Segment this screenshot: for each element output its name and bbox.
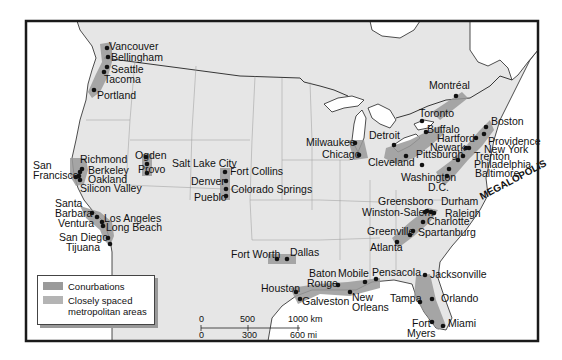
city-label: Rouge	[307, 277, 338, 289]
city-dot-icon	[101, 224, 106, 229]
city-dot-icon	[420, 163, 425, 168]
city-dot-icon	[454, 94, 459, 99]
city-label: Milwaukee	[306, 136, 356, 148]
map-legend: Conurbations Closely spaced metropolitan…	[37, 275, 155, 325]
city-label: Galveston	[302, 295, 349, 307]
city-dot-icon	[420, 119, 425, 124]
city-label: Silicon Valley	[80, 182, 142, 194]
city-label: Fort Collins	[230, 165, 283, 177]
city-dot-icon	[482, 132, 487, 137]
city-label: Francisco	[33, 169, 79, 181]
city-dot-icon	[392, 143, 397, 148]
city-label: Boston	[491, 115, 524, 127]
city-label: Montréal	[429, 79, 470, 91]
city-label: Colorado Springs	[231, 183, 312, 195]
scale-km-1000: 1000 km	[288, 314, 323, 324]
legend-label: Closely spaced metropolitan areas	[68, 295, 147, 317]
city-label: Myers	[407, 327, 436, 339]
city-label: Provo	[138, 163, 166, 175]
city-label: Orleans	[352, 301, 389, 313]
city-label: Ventura	[58, 217, 94, 229]
city-dot-icon	[430, 297, 435, 302]
city-dot-icon	[484, 125, 489, 130]
city-dot-icon	[423, 273, 428, 278]
city-label: Portland	[97, 89, 136, 101]
scale-mi-0: 0	[199, 330, 204, 340]
scale-km-0: 0	[199, 314, 204, 324]
city-label: Pueblo	[194, 191, 227, 203]
legend-item-conurbations: Conurbations	[43, 281, 125, 292]
city-label: Greenville	[367, 225, 414, 237]
city-dot-icon	[92, 88, 97, 93]
city-label: Newark	[430, 141, 466, 153]
city-dot-icon	[95, 215, 100, 220]
city-label: Chicago	[322, 148, 361, 160]
city-label: Salt Lake City	[172, 157, 238, 169]
city-label: Mobile	[338, 267, 369, 279]
city-label: Ogden	[135, 149, 167, 161]
metro-area-swatch-icon	[43, 296, 63, 304]
city-label: Durham	[441, 195, 479, 207]
city-dot-icon	[441, 324, 446, 329]
city-label: Dallas	[290, 246, 319, 258]
scale-mi-600: 600 mi	[290, 330, 317, 340]
city-label: Toronto	[419, 107, 454, 119]
city-label: Denver	[191, 175, 225, 187]
city-label: Pensacola	[372, 266, 421, 278]
city-dot-icon	[421, 220, 426, 225]
city-dot-icon	[285, 257, 290, 262]
scale-mi-300: 300	[242, 330, 257, 340]
city-label: Long Beach	[106, 221, 162, 233]
city-dot-icon	[106, 55, 111, 60]
city-label: Houston	[261, 282, 300, 294]
legend-item-metro-areas: Closely spaced metropolitan areas	[43, 295, 147, 317]
city-label: Atlanta	[370, 241, 403, 253]
city-label: Orlando	[441, 292, 479, 304]
city-label: D.C.	[428, 181, 449, 193]
conurbation-swatch-icon	[43, 282, 63, 290]
city-label: Bellingham	[111, 51, 163, 63]
city-dot-icon	[223, 170, 228, 175]
legend-label-line2: metropolitan areas	[68, 306, 147, 317]
city-label: Spartanburg	[418, 226, 476, 238]
city-dot-icon	[363, 280, 368, 285]
legend-label: Conurbations	[68, 281, 125, 292]
city-label: Tacoma	[104, 73, 141, 85]
city-label: Tijuana	[66, 241, 100, 253]
city-label: Miami	[448, 317, 476, 329]
city-dot-icon	[105, 65, 110, 70]
city-label: Tampa	[390, 292, 422, 304]
city-label: Winston-Salem	[362, 206, 433, 218]
legend-label-line1: Closely spaced	[68, 295, 132, 306]
scale-km-500: 500	[240, 314, 255, 324]
city-dot-icon	[108, 242, 113, 247]
city-label: Baltimore	[475, 167, 520, 179]
city-label: Fort Worth	[231, 248, 281, 260]
city-label: Cleveland	[368, 156, 415, 168]
city-label: Detroit	[369, 129, 400, 141]
city-label: Jacksonville	[430, 268, 487, 280]
